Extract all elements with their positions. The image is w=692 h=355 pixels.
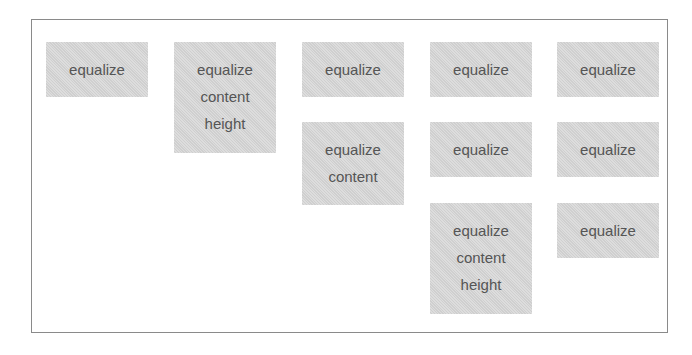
equalize-box-3: equalize: [302, 42, 404, 97]
box-text: height: [174, 110, 276, 137]
box-text: equalize: [430, 217, 532, 244]
equalize-box-10: equalize: [557, 203, 659, 258]
box-text: equalize: [46, 56, 148, 83]
equalize-box-8: equalize: [557, 42, 659, 97]
box-text: equalize: [430, 56, 532, 83]
box-text: equalize: [557, 56, 659, 83]
equalize-box-5: equalize: [430, 42, 532, 97]
equalize-box-7: equalize content height: [430, 203, 532, 314]
box-text: equalize: [302, 56, 404, 83]
box-text: content: [430, 244, 532, 271]
box-text: height: [430, 271, 532, 298]
equalize-box-2: equalize content height: [174, 42, 276, 153]
box-text: equalize: [430, 136, 532, 163]
equalize-box-4: equalize content: [302, 122, 404, 205]
box-text: equalize: [557, 136, 659, 163]
box-text: equalize: [557, 217, 659, 244]
box-text: content: [174, 83, 276, 110]
box-text: equalize: [174, 56, 276, 83]
box-text: equalize: [302, 136, 404, 163]
box-text: content: [302, 163, 404, 190]
equalize-box-6: equalize: [430, 122, 532, 177]
equalize-box-1: equalize: [46, 42, 148, 97]
equalize-box-9: equalize: [557, 122, 659, 177]
